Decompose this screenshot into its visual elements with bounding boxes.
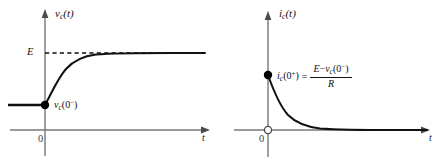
capacitor-voltage-plot (0, 0, 224, 164)
left-origin-label: 0 (38, 134, 43, 145)
initial-current-dot (264, 71, 272, 79)
voltage-rise-curve (45, 53, 205, 105)
right-x-axis-label: t (429, 133, 432, 143)
left-y-axis-arrowhead (42, 9, 49, 18)
formula-lhs: ic(0+) (277, 70, 299, 83)
steady-state-level-label: E (27, 47, 33, 58)
right-origin-label: 0 (259, 134, 264, 145)
formula-denominator: R (325, 78, 337, 90)
left-y-axis-label: vc(t) (55, 8, 74, 21)
formula-numerator: E−vc(0−) (310, 64, 351, 77)
initial-voltage-dot (41, 101, 49, 109)
initial-current-formula: ic(0+) = E−vc(0−) R (277, 64, 352, 89)
formula-fraction: E−vc(0−) R (310, 64, 351, 89)
formula-equals: = (302, 71, 308, 82)
figure-container: vc(t) E vc(0−) 0 t ic(t) ic(0+) = E−vc(0… (0, 0, 448, 164)
right-y-axis-arrowhead (265, 11, 272, 20)
left-x-axis-label: t (202, 133, 205, 143)
initial-voltage-label: vc(0−) (54, 100, 77, 112)
origin-open-circle (264, 126, 271, 133)
right-y-axis-label: ic(t) (279, 8, 296, 21)
